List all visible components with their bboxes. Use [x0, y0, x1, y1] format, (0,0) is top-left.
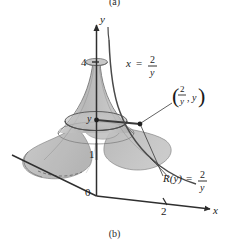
axis-point-y-label: y: [86, 113, 92, 124]
curve-equation-label: x = 2 y: [125, 54, 157, 78]
radius-equation-equals: =: [186, 172, 192, 184]
radius-equation-label: R(y) = 2 y: [162, 169, 207, 193]
curve-equation-numerator: 2: [150, 54, 155, 65]
x-axis-label: x: [212, 204, 218, 216]
point-numerator: 2: [180, 84, 185, 94]
radius-equation-numerator: 2: [200, 169, 205, 180]
point-paren-open: (: [172, 83, 179, 108]
point-paren-close: ): [198, 83, 205, 108]
tick-label-x-2: 2: [161, 205, 167, 217]
x-axis: [97, 196, 211, 209]
axis-point-dot: [94, 118, 99, 123]
point-second-coord: y: [191, 92, 197, 103]
origin-label: 0: [85, 186, 91, 198]
point-denominator: y: [179, 96, 184, 106]
figure-caption-b: (b): [0, 228, 229, 239]
y-axis-label: y: [99, 13, 105, 25]
curve-upper-tail: [108, 27, 109, 40]
tick-label-y-4: 4: [81, 56, 87, 68]
curve-equation-denominator: y: [149, 67, 155, 78]
surface-skirt-left: [23, 128, 92, 179]
point-comma: ,: [187, 92, 190, 103]
curve-equation-equals: =: [136, 57, 142, 69]
solid-of-revolution-figure: y x 0 4 1 2 y x = 2 y ( 2 y , y ) R(y) =…: [0, 0, 229, 250]
radius-equation-denominator: y: [199, 182, 205, 193]
curve-equation-x: x: [125, 57, 131, 69]
tick-label-y-1: 1: [89, 148, 95, 160]
radius-equation-lhs: R(y): [162, 172, 182, 185]
point-coordinate-label: ( 2 y , y ): [172, 83, 205, 108]
leader-point-label: [141, 103, 172, 123]
